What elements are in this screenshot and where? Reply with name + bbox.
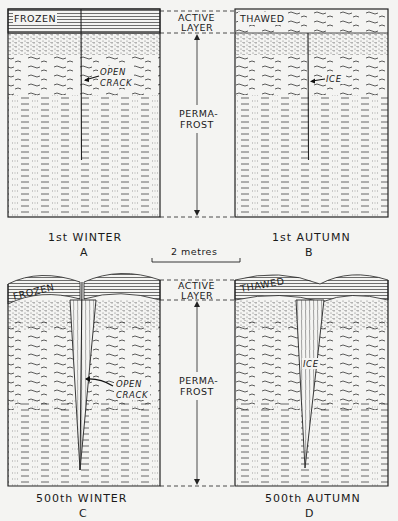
panel-letter: A: [80, 246, 89, 259]
surface-label: THAWED: [239, 13, 285, 24]
svg-text:FROST: FROST: [180, 386, 214, 397]
svg-text:ICE: ICE: [326, 74, 342, 84]
svg-text:OPEN: OPEN: [100, 67, 126, 77]
panel-b: THAWED ICE 1st AUTUMN B: [235, 9, 388, 259]
panel-letter: D: [305, 507, 314, 520]
panel-caption: 500th WINTER: [36, 492, 127, 505]
svg-text:OPEN: OPEN: [116, 379, 142, 389]
svg-text:CRACK: CRACK: [100, 78, 133, 88]
svg-text:FROST: FROST: [180, 119, 214, 130]
panel-caption: 1st AUTUMN: [272, 231, 351, 244]
ice-vein: [308, 33, 309, 160]
middle-column-bottom: ACTIVE LAYER PERMA- FROST: [160, 280, 235, 486]
svg-text:PERMA-: PERMA-: [179, 375, 218, 386]
scale-bar-label: 2 metres: [171, 246, 217, 257]
middle-column-top: ACTIVE LAYER PERMA- FROST: [160, 11, 235, 217]
panel-d: THAWED ICE 500th AUTUMN D: [235, 275, 388, 520]
svg-text:LAYER: LAYER: [181, 290, 213, 301]
panel-a: FROZEN OPEN CRACK 1st WINTER A: [8, 9, 160, 259]
ice-wedge-diagram: FROZEN OPEN CRACK 1st WINTER A THAWED IC…: [0, 0, 398, 521]
surface-label: FROZEN: [14, 13, 56, 24]
panel-caption: 500th AUTUMN: [265, 492, 361, 505]
svg-text:LAYER: LAYER: [181, 22, 213, 33]
panel-letter: C: [79, 507, 88, 520]
panel-letter: B: [305, 246, 314, 259]
svg-text:PERMA-: PERMA-: [179, 108, 218, 119]
svg-text:ICE: ICE: [303, 359, 319, 369]
scale-bar: 2 metres: [152, 246, 240, 262]
open-crack: [81, 9, 82, 160]
panel-caption: 1st WINTER: [48, 231, 122, 244]
svg-text:CRACK: CRACK: [116, 390, 149, 400]
panel-c: FROZEN OPEN CRACK 500th WINTER C: [8, 273, 160, 520]
